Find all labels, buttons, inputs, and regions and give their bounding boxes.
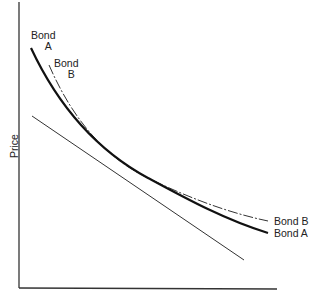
bond-a-right-label: Bond A [274,228,308,239]
bond-b-top-label: Bond B [54,58,79,80]
bond-b-curve [49,65,268,221]
bond-a-top-label: Bond A [31,30,56,52]
y-axis-label: Price [8,126,20,166]
tangent-line [32,116,244,260]
bond-a-top-label-line1: Bond [31,30,56,41]
bond-b-top-label-line1: Bond [54,58,79,69]
bond-b-right-label: Bond B [274,216,308,227]
bond-b-top-label-line2: B [64,69,79,80]
x-axis [19,288,277,289]
bond-a-top-label-line2: A [41,41,56,52]
